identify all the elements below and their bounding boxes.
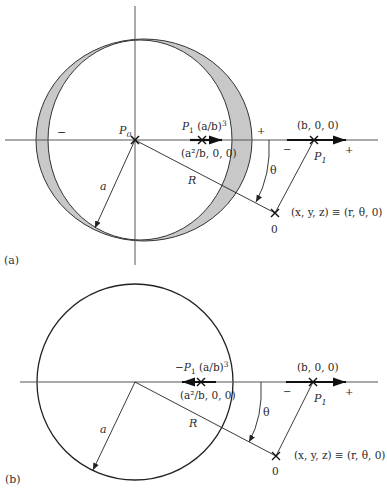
origin-label-a: 0 — [271, 223, 278, 235]
dipole-label-a: P1 — [313, 150, 327, 165]
dipole-minus-a: − — [283, 144, 291, 155]
image-dipole-position-a: (a²/b, 0, 0) — [181, 147, 237, 159]
panel-b: −P1 (a/b)3 (a²/b, 0, 0) a R θ (b, 0, 0) … — [5, 284, 385, 486]
image-dipole-position-b: (a²/b, 0, 0) — [180, 389, 236, 401]
dipole-minus-b: − — [283, 386, 291, 397]
angle-label-b: θ — [263, 406, 270, 419]
r-line-a — [275, 140, 314, 213]
radius-label-a: a — [100, 180, 107, 193]
dipole-plus-b: + — [345, 386, 353, 397]
panel-a: − + P0 P1 (a/b)3 (a²/b, 0, 0) a R θ (b, … — [4, 6, 382, 267]
field-point-label-a: (x, y, z) ≡ (r, θ, 0) — [291, 206, 382, 218]
caption-b: (b) — [5, 473, 21, 486]
field-point-cross-icon-b — [272, 452, 280, 460]
dipole-position-b: (b, 0, 0) — [297, 361, 339, 373]
angle-label-a: θ — [270, 164, 277, 177]
distance-label-a: R — [187, 174, 196, 187]
dipole-sphere-diagram: − + P0 P1 (a/b)3 (a²/b, 0, 0) a R θ (b, … — [0, 0, 387, 497]
angle-arc-b — [249, 382, 261, 442]
radius-label-b: a — [100, 423, 107, 436]
field-point-cross-icon — [271, 209, 279, 217]
caption-a: (a) — [4, 254, 19, 267]
field-point-label-b: (x, y, z) ≡ (r, θ, 0) — [294, 449, 385, 461]
image-dipole-label-b: −P1 (a/b)3 — [175, 360, 229, 376]
distance-label-b: R — [188, 417, 197, 430]
dipole-position-a: (b, 0, 0) — [297, 119, 339, 131]
dipole-label-b: P1 — [313, 392, 327, 407]
origin-label-b: 0 — [272, 465, 279, 477]
angle-arc-a — [256, 140, 269, 202]
sign-plus-right-a: + — [257, 125, 265, 136]
r-line-b — [276, 382, 313, 456]
sign-minus-left-a: − — [57, 126, 66, 139]
dipole-plus-a: + — [345, 144, 353, 155]
